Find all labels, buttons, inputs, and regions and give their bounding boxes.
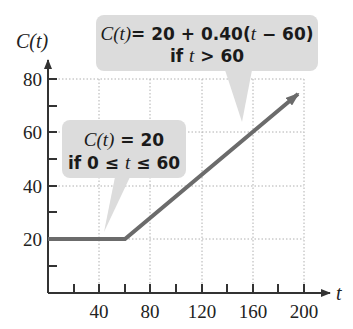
x-tick-40: 40 <box>90 301 109 322</box>
y-tick-40: 40 <box>23 176 42 197</box>
x-ticks <box>74 284 304 293</box>
callout-upper-cond-tail: > 60 <box>194 46 244 66</box>
y-tick-20: 20 <box>23 229 42 250</box>
y-tick-labels: 20 40 60 80 <box>23 69 42 250</box>
x-axis-title: t <box>336 282 342 304</box>
callout-upper-tail: − 60) <box>256 24 314 44</box>
svg-text:if 0 ≤ t ≤ 60: if 0 ≤ t ≤ 60 <box>68 152 180 173</box>
x-tick-labels: 40 80 120 160 200 <box>90 301 319 322</box>
callout-lower-cond-tail: ≤ 60 <box>130 153 180 173</box>
y-tick-60: 60 <box>23 122 42 143</box>
callout-lower: C(t) = 20 if 0 ≤ t ≤ 60 <box>62 120 186 232</box>
chart-canvas: C(t)= 20 + 0.40(t − 60) if t > 60 C(t) =… <box>0 0 353 329</box>
x-tick-80: 80 <box>141 301 160 322</box>
x-tick-160: 160 <box>239 301 268 322</box>
callout-upper-lhs: C(t) <box>100 23 131 45</box>
callout-upper-rhs: = 20 + 0.40( <box>131 24 251 44</box>
y-axis-title: C(t) <box>16 30 49 53</box>
callout-lower-rhs: = 20 <box>114 130 164 150</box>
y-tick-80: 80 <box>23 69 42 90</box>
svg-text:C(t)= 20 + 0.40(t − 60): C(t)= 20 + 0.40(t − 60) <box>100 23 313 45</box>
svg-text:C(t) = 20: C(t) = 20 <box>84 129 165 151</box>
x-tick-200: 200 <box>290 301 319 322</box>
callout-lower-lhs: C(t) <box>84 129 115 151</box>
grid <box>48 79 304 293</box>
callout-upper-cond-if: if <box>170 46 189 66</box>
x-tick-120: 120 <box>188 301 217 322</box>
svg-text:if t > 60: if t > 60 <box>170 45 244 66</box>
callout-lower-cond-if: if 0 ≤ <box>68 153 125 173</box>
